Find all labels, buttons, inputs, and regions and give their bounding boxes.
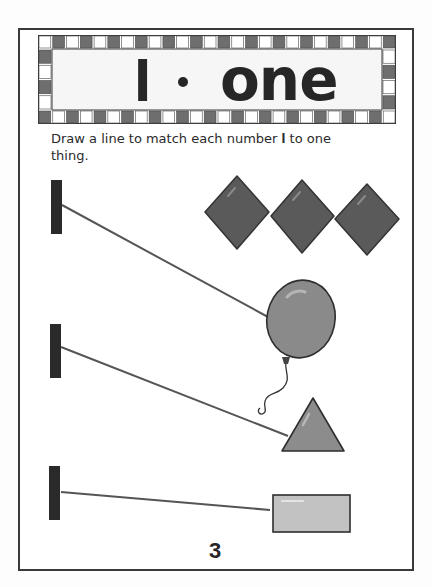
numeral-one-bar-1[interactable]: [51, 180, 62, 234]
diamond-icon: [335, 184, 399, 255]
diamond-group[interactable]: [205, 176, 399, 255]
matching-area: [0, 0, 432, 587]
balloon-icon: [260, 274, 343, 364]
rectangle[interactable]: [273, 495, 350, 532]
balloon[interactable]: [258, 274, 342, 414]
diamond-icon: [205, 176, 269, 249]
match-line-2[interactable]: [61, 347, 288, 436]
numeral-one-bar-3[interactable]: [49, 466, 60, 520]
match-line-3[interactable]: [61, 492, 270, 510]
page-number: 3: [200, 538, 230, 564]
balloon-string: [258, 361, 287, 414]
diamond-icon: [271, 180, 334, 253]
triangle[interactable]: [282, 398, 344, 451]
triangle-icon: [282, 398, 344, 451]
balloon-knot: [282, 357, 290, 364]
numeral-one-bar-2[interactable]: [50, 324, 61, 378]
